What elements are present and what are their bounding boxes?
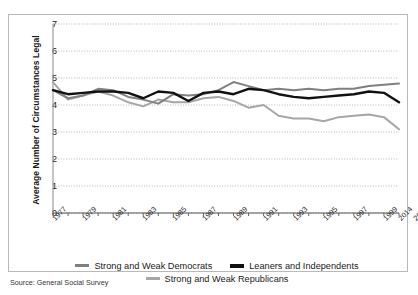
- legend-item-republicans[interactable]: Strong and Weak Republicans: [146, 274, 289, 284]
- legend-swatch-democrats-icon: [75, 264, 89, 267]
- source-note: Source: General Social Survey: [10, 278, 108, 287]
- legend-label-democrats: Strong and Weak Democrats: [94, 261, 212, 271]
- chart-frame: Average Number of Circumstances Legal 76…: [8, 14, 408, 272]
- legend-row-top: Strong and Weak Democrats Leaners and In…: [17, 259, 417, 272]
- legend-label-republicans: Strong and Weak Republicans: [165, 274, 289, 284]
- legend-swatch-republicans-icon: [146, 277, 160, 280]
- legend-swatch-independents-icon: [230, 264, 244, 268]
- legend-item-democrats[interactable]: Strong and Weak Democrats: [75, 261, 212, 271]
- legend-label-independents: Leaners and Independents: [249, 261, 358, 271]
- y-axis-title: Average Number of Circumstances Legal: [19, 29, 37, 219]
- plot-area: [39, 20, 403, 225]
- legend-item-independents[interactable]: Leaners and Independents: [230, 261, 358, 271]
- x-axis-tick-labels: 1977197919811983198519871989199119931995…: [53, 215, 417, 257]
- x-axis-tick-label: 2001: [412, 205, 418, 222]
- line-chart-svg: [39, 20, 403, 225]
